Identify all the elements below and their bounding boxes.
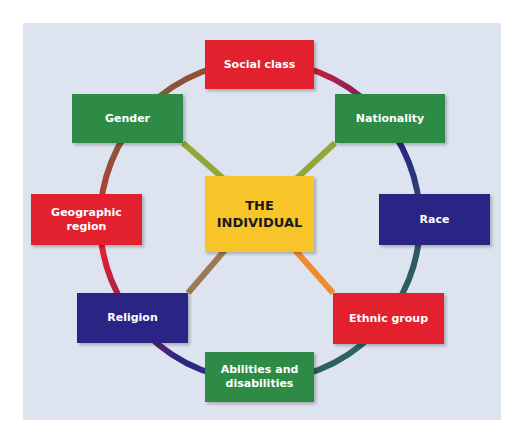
center-the-individual: THE INDIVIDUAL xyxy=(205,176,314,252)
node-gender: Gender xyxy=(72,94,183,143)
node-ethnic-group: Ethnic group xyxy=(333,293,444,344)
node-race: Race xyxy=(379,194,490,245)
node-religion: Religion xyxy=(77,293,188,343)
node-abilities-and-disabilities: Abilities anddisabilities xyxy=(205,352,314,402)
node-geographic-region: Geographic region xyxy=(31,194,142,245)
node-nationality: Nationality xyxy=(335,94,445,143)
node-social-class: Social class xyxy=(205,40,314,89)
